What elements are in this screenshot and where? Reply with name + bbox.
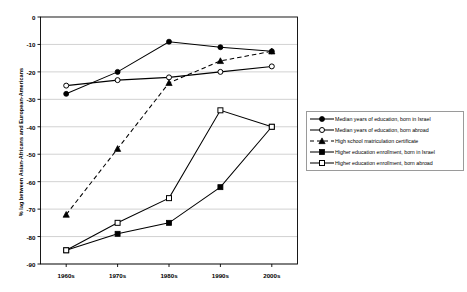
legend-item: High school matriculation certificate — [309, 136, 461, 147]
x-axis-tick-label: 1990s — [195, 272, 245, 279]
plot-frame — [41, 17, 298, 264]
legend-marker — [320, 149, 325, 154]
y-axis-tick-label: -90 — [10, 261, 36, 268]
data-point — [64, 83, 69, 88]
legend-marker-filled-circle-icon — [309, 114, 335, 124]
frame-rect — [41, 17, 298, 264]
data-point — [167, 220, 172, 225]
legend-marker — [320, 117, 325, 122]
data-point — [218, 185, 223, 190]
y-axis-tick-label: -80 — [10, 233, 36, 240]
data-point — [218, 108, 223, 113]
y-axis-tick-label: -30 — [10, 96, 36, 103]
data-point — [269, 64, 274, 69]
data-point — [115, 69, 120, 74]
data-point — [64, 91, 69, 96]
x-axis-tick-label: 2000s — [247, 272, 297, 279]
legend-item: Higher education enrollment, born abroad — [309, 157, 461, 168]
data-point — [218, 69, 223, 74]
chart-container: % lag between Asian-Africans and Europea… — [0, 0, 467, 292]
data-point — [269, 124, 274, 129]
y-axis-tick-label: -50 — [10, 151, 36, 158]
data-point — [115, 231, 120, 236]
data-point — [167, 196, 172, 201]
legend-marker-filled-triangle-icon — [309, 136, 335, 146]
data-point — [115, 78, 120, 83]
chart-legend: Median years of education, born in Israe… — [306, 111, 464, 171]
y-axis-tick-label: -20 — [10, 68, 36, 75]
legend-marker-open-square-icon — [309, 158, 335, 168]
y-axis-tick-label: -60 — [10, 178, 36, 185]
legend-item: Median years of education, born abroad — [309, 125, 461, 136]
data-point — [167, 39, 172, 44]
x-axis-tick-label: 1980s — [144, 272, 194, 279]
legend-marker-filled-square-icon — [309, 147, 335, 157]
legend-label: Median years of education, born in Israe… — [335, 116, 431, 122]
x-axis-tick-label: 1970s — [93, 272, 143, 279]
legend-label: Median years of education, born abroad — [335, 127, 429, 133]
series-1 — [64, 39, 275, 96]
y-axis-tick-label: 0 — [10, 14, 36, 21]
legend-marker — [320, 128, 325, 133]
legend-item: Higher education enrollment, born in Isr… — [309, 146, 461, 157]
series-line — [66, 127, 272, 251]
series-5 — [64, 108, 275, 253]
series-line — [66, 42, 272, 94]
y-axis-tick-label: -70 — [10, 206, 36, 213]
data-point — [64, 248, 69, 253]
legend-item: Median years of education, born in Israe… — [309, 114, 461, 125]
series-line — [66, 110, 272, 250]
series-3 — [63, 48, 275, 217]
legend-label: High school matriculation certificate — [335, 138, 418, 144]
legend-label: Higher education enrollment, born abroad — [335, 160, 433, 166]
x-axis-tick-label: 1960s — [41, 272, 91, 279]
legend-marker-open-circle-icon — [309, 125, 335, 135]
data-point — [115, 220, 120, 225]
y-axis-tick-label: -10 — [10, 41, 36, 48]
x-tick-marks — [66, 264, 272, 267]
legend-marker — [320, 160, 325, 165]
y-axis-tick-label: -40 — [10, 123, 36, 130]
data-point — [166, 80, 172, 86]
legend-label: Higher education enrollment, born in Isr… — [335, 149, 435, 155]
data-point — [218, 45, 223, 50]
series-4 — [64, 124, 275, 253]
